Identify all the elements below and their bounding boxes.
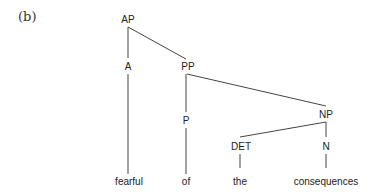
node-det: DET — [231, 141, 251, 152]
node-np: NP — [319, 109, 333, 120]
node-pp: PP — [181, 61, 194, 72]
leaf-the: the — [233, 176, 247, 187]
leaf-fearful: fearful — [115, 176, 143, 187]
edge-np-det — [240, 122, 326, 137]
leaf-of: of — [182, 176, 190, 187]
node-p: P — [183, 115, 190, 126]
tree-edges — [0, 0, 372, 192]
node-n: N — [322, 141, 329, 152]
edge-pp-np — [187, 74, 326, 106]
node-a: A — [125, 61, 132, 72]
leaf-consequences: consequences — [294, 176, 359, 187]
edge-ap-pp — [128, 27, 186, 59]
node-ap: AP — [121, 14, 134, 25]
